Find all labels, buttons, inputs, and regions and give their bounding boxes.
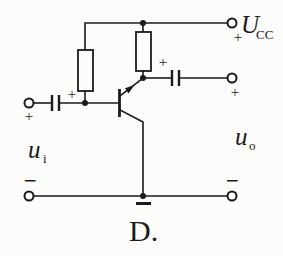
transistor-emitter-arrow-icon — [125, 85, 135, 94]
transistor-collector-lead — [120, 110, 143, 196]
junction-ground — [140, 193, 146, 199]
junction-base — [82, 100, 88, 106]
output-voltage-label: u — [235, 123, 248, 150]
junction-top — [140, 20, 146, 26]
resistor-left — [78, 50, 93, 91]
terminal-output-top — [228, 74, 237, 83]
terminal-output-bottom — [228, 192, 237, 201]
terminal-input-bottom — [25, 192, 34, 201]
supply-plus-sign: + — [234, 29, 242, 45]
circuit-figure: U CC + + + u i − + + u o − D. — [0, 0, 283, 256]
output-voltage-subscript: o — [249, 138, 256, 153]
terminal-input-top — [25, 99, 34, 108]
figure-caption: D. — [129, 214, 158, 247]
input-terminal-minus-sign: − — [23, 170, 37, 190]
input-voltage-label: u — [28, 136, 41, 163]
supply-label-subscript: CC — [256, 27, 273, 42]
resistor-right — [136, 32, 151, 71]
wire-top-rail — [85, 23, 228, 50]
input-terminal-plus-sign: + — [25, 108, 33, 124]
input-voltage-subscript: i — [43, 151, 47, 166]
junction-emitter-node — [140, 75, 146, 81]
output-terminal-minus-sign: − — [225, 170, 239, 190]
input-cap-plus-sign: + — [68, 86, 76, 102]
output-terminal-plus-sign: + — [231, 84, 239, 100]
terminal-supply — [228, 19, 237, 28]
output-cap-plus-sign: + — [159, 54, 167, 70]
circuit-diagram: U CC + + + u i − + + u o − D. — [0, 0, 283, 256]
